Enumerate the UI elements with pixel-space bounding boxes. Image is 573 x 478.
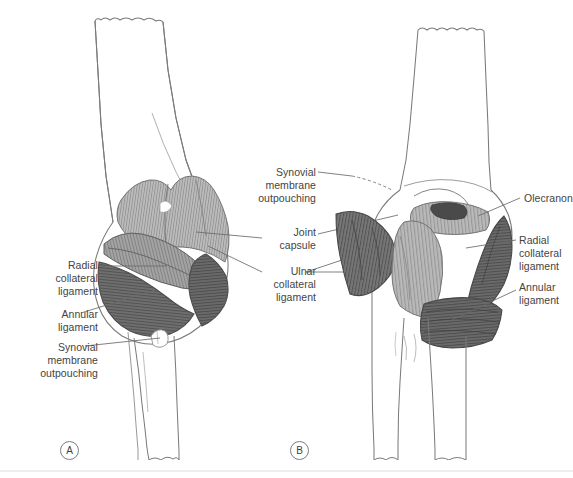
synovial-membrane-outpouching-b: [395, 332, 416, 362]
label-joint-capsule-center: Joint capsule: [254, 226, 316, 252]
ulna-shaft: [128, 332, 148, 460]
label-radial-collateral-ligament-left: Radial collateral ligament: [26, 259, 98, 299]
label-annular-ligament-right: Annular ligament: [519, 281, 573, 307]
panel-a-drawing: [81, 18, 229, 460]
panel-b-drawing: [336, 28, 520, 460]
label-synovial-membrane-outpouching-left: Synovial membrane outpouching: [14, 341, 98, 381]
label-radial-collateral-ligament-right: Radial collateral ligament: [519, 234, 573, 274]
annular-ligament-b: [420, 298, 502, 348]
radius-shaft: [134, 336, 179, 460]
ulnar-collateral-ligament-b: [336, 211, 396, 295]
panel-marker-a: A: [60, 441, 79, 460]
label-ulnar-collateral-ligament-center: Ulnar collateral ligament: [254, 265, 316, 305]
label-olecranon-right: Olecranon: [524, 192, 573, 205]
anatomical-figure: Radial collateral ligament Annular ligam…: [0, 0, 573, 478]
humerus-shaft-b: [400, 28, 491, 190]
label-annular-ligament-left: Annular ligament: [26, 308, 98, 334]
label-synovial-membrane-outpouching-center: Synovial membrane outpouching: [254, 166, 316, 206]
radius-shaft-b: [372, 292, 404, 460]
panel-marker-b: B: [290, 441, 309, 460]
